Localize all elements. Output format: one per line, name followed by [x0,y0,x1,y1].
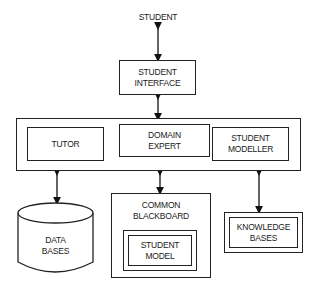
knowledge-bases-box: KNOWLEDGE BASES [229,217,298,248]
student-model-box: STUDENT MODEL [128,235,192,266]
common-blackboard-line2: BLACKBOARD [133,211,189,222]
student-modeller-line2: MODELLER [228,144,273,155]
data-bases-node: DATA BASES [18,232,93,260]
knowledge-bases-line1: KNOWLEDGE [237,222,290,233]
student-interface-line2: INTERFACE [135,78,181,89]
knowledge-bases-outer-box: KNOWLEDGE BASES [224,212,303,253]
student-modeller-line1: STUDENT [231,133,270,144]
data-bases-line2: BASES [42,246,69,257]
domain-expert-line1: DOMAIN [148,130,181,141]
student-interface-line1: STUDENT [138,67,177,78]
data-bases-line1: DATA [45,235,66,246]
common-blackboard-line1: COMMON [142,200,180,211]
student-modeller-box: STUDENT MODELLER [212,127,289,161]
common-blackboard-box: COMMON BLACKBOARD STUDENT MODEL [111,193,211,278]
student-label: STUDENT [139,12,178,22]
student-model-line1: STUDENT [141,240,180,251]
tutor-box: TUTOR [27,127,104,161]
student-model-line2: MODEL [145,251,174,262]
domain-expert-box: DOMAIN EXPERT [119,124,210,157]
knowledge-bases-line2: BASES [250,233,277,244]
student-node: STUDENT [128,12,188,23]
student-model-outer-box: STUDENT MODEL [123,230,197,271]
student-interface-box: STUDENT INTERFACE [119,60,196,95]
domain-expert-line2: EXPERT [148,141,181,152]
tutor-label: TUTOR [51,139,79,150]
